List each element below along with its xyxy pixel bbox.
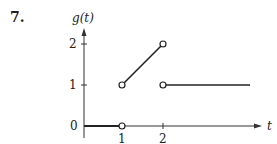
problem-number: 7.	[10, 9, 25, 25]
open-point-1-0	[119, 123, 125, 129]
open-point-2-2	[160, 41, 166, 47]
x-axis-arrow-icon	[254, 124, 262, 129]
y-axis-arrow-icon	[82, 28, 87, 36]
graph: 7. g(t) t 2 1 0 1 2	[0, 0, 277, 144]
y-axis-label: g(t)	[72, 11, 94, 25]
y-tick-label-2: 2	[69, 37, 77, 51]
y-tick-label-0: 0	[70, 119, 78, 133]
x-tick-label-1: 1	[118, 132, 126, 144]
open-point-2-1	[160, 82, 166, 88]
y-tick-label-1: 1	[69, 78, 77, 92]
x-tick-label-2: 2	[159, 132, 167, 144]
open-point-1-1	[119, 82, 125, 88]
x-axis-label: t	[267, 119, 272, 133]
segment-ramp	[124, 46, 161, 83]
